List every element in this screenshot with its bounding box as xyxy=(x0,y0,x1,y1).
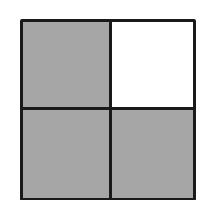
cell-bottom-right-shaded xyxy=(110,108,193,198)
cell-bottom-left-shaded xyxy=(23,108,110,198)
cell-top-right-unshaded xyxy=(110,22,193,108)
cell-top-left-shaded xyxy=(23,22,110,108)
vertical-divider xyxy=(109,22,112,198)
fraction-square xyxy=(20,19,196,200)
horizontal-divider xyxy=(23,107,193,110)
